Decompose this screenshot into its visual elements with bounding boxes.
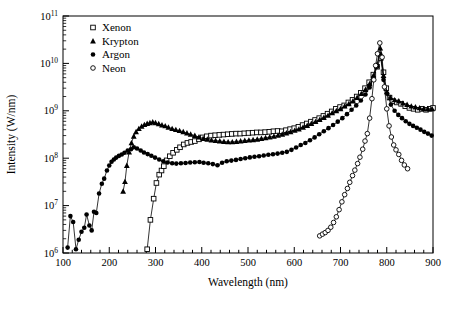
x-tick-label: 400 — [194, 257, 210, 268]
y-tick-label: 1010 — [40, 56, 58, 69]
chart-legend: XenonKryptonArgonNeon — [90, 21, 139, 74]
series-xenon — [145, 56, 435, 252]
legend-label: Neon — [102, 62, 126, 74]
x-tick-label: 900 — [425, 257, 441, 268]
legend-entry-argon: Argon — [91, 48, 131, 60]
y-tick-label: 108 — [44, 151, 59, 164]
legend-label: Krypton — [102, 35, 139, 47]
y-axis-title: Intensity (W/nm) — [5, 95, 18, 175]
x-tick-label: 700 — [333, 257, 349, 268]
y-axis: 10610710810910101011 — [40, 9, 69, 259]
spectral-intensity-figure: 1002003004005006007008009001061071081091… — [0, 0, 460, 311]
x-tick-label: 300 — [148, 257, 164, 268]
series-argon — [65, 52, 434, 251]
chart-canvas: 1002003004005006007008009001061071081091… — [0, 0, 460, 311]
legend-label: Argon — [102, 48, 130, 60]
series-krypton — [120, 45, 435, 194]
y-tick-label: 1011 — [40, 9, 58, 22]
legend-entry-xenon: Xenon — [91, 21, 132, 33]
legend-label: Xenon — [102, 21, 132, 33]
legend-entry-neon: Neon — [91, 62, 127, 74]
x-axis-title: Wavelength (nm) — [208, 276, 288, 289]
legend-entry-krypton: Krypton — [90, 35, 139, 47]
x-tick-label: 500 — [240, 257, 256, 268]
x-tick-label: 200 — [101, 257, 117, 268]
x-tick-label: 100 — [55, 257, 71, 268]
series-neon — [317, 41, 409, 239]
x-tick-label: 800 — [379, 257, 395, 268]
x-tick-label: 600 — [286, 257, 302, 268]
y-tick-label: 109 — [44, 103, 59, 116]
x-axis: 100200300400500600700800900 — [55, 247, 441, 268]
y-tick-label: 107 — [44, 198, 59, 211]
